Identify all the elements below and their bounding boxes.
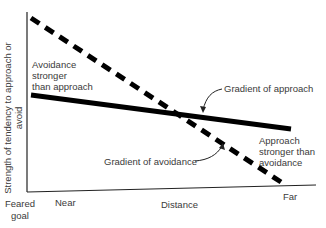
annotation-line: Avoidance <box>32 59 93 70</box>
x-tick-feared-goal: Feared goal <box>4 198 36 222</box>
gradient-avoidance-label: Gradient of avoidance <box>104 156 197 167</box>
diagram-canvas <box>0 0 326 228</box>
arrowhead-icon <box>200 106 206 113</box>
avoidance-stronger-label: Avoidance stronger than approach <box>32 59 93 92</box>
annotation-line: than approach <box>32 81 93 92</box>
annotation-line: stronger <box>32 70 93 81</box>
approach-gradient-line <box>31 95 291 129</box>
approach-pointer-arrow <box>203 89 222 110</box>
approach-stronger-label: Approach stronger than avoidance <box>259 135 315 168</box>
annotation-line: stronger than <box>259 146 315 157</box>
annotation-line: Approach <box>259 135 315 146</box>
annotation-line: avoidance <box>259 157 315 168</box>
x-axis <box>27 185 316 192</box>
x-tick-near: Near <box>55 197 76 208</box>
y-axis-label: Strength of tendency to approach or avoi… <box>2 33 24 203</box>
x-axis-label: Distance <box>161 199 198 210</box>
x-tick-far: Far <box>283 191 297 202</box>
avoidance-pointer-arrow <box>195 146 222 161</box>
gradient-approach-label: Gradient of approach <box>224 83 313 94</box>
